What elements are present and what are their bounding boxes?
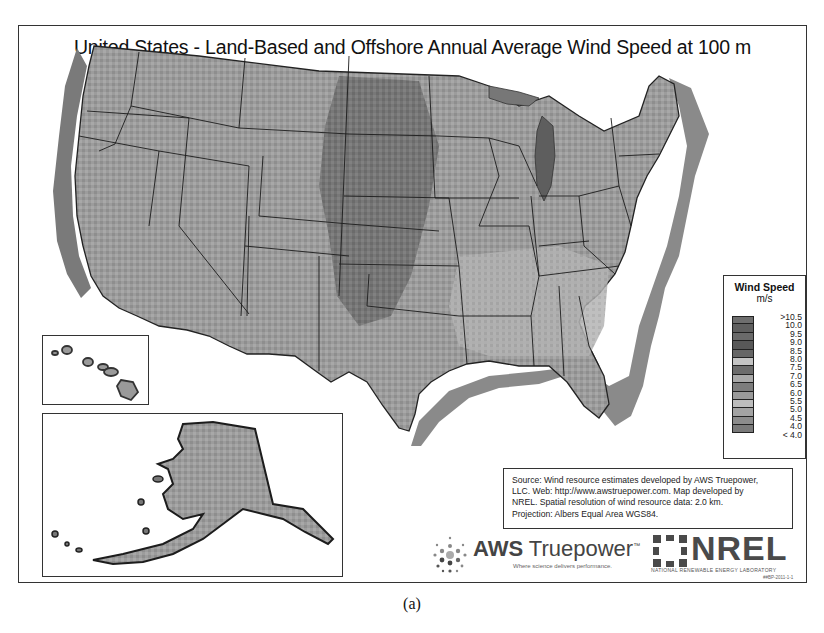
legend-title: Wind Speed xyxy=(724,281,805,293)
map-figure-frame: United States - Land-Based and Offshore … xyxy=(18,25,807,583)
legend-swatch xyxy=(732,400,754,408)
legend-swatches xyxy=(732,316,754,433)
legend-swatch xyxy=(732,425,754,433)
legend-swatch xyxy=(732,375,754,383)
source-note: Source: Wind resource estimates develope… xyxy=(503,468,793,529)
aws-tagline: Where science delivers performance. xyxy=(513,563,612,569)
legend-swatch xyxy=(732,358,754,366)
legend-swatch xyxy=(732,341,754,349)
legend-swatch xyxy=(732,316,754,324)
aws-truepower-logo: AWS Truepower™ xyxy=(473,536,640,562)
legend-swatch xyxy=(732,366,754,374)
nrel-logo: NREL xyxy=(691,529,788,568)
logos: AWS Truepower™ Where science delivers pe… xyxy=(429,531,799,581)
source-line: NREL. Spatial resolution of wind resourc… xyxy=(512,497,784,508)
legend-swatch xyxy=(732,383,754,391)
alaska-map xyxy=(43,414,341,575)
wind-speed-legend: Wind Speed m/s >10.510.09.59.08.58.07.57… xyxy=(723,275,806,459)
legend-swatch xyxy=(732,392,754,400)
legend-swatch xyxy=(732,350,754,358)
source-line: Projection: Albers Equal Area WGS84. xyxy=(512,509,784,520)
source-line: LLC. Web: http://www.awstruepower.com. M… xyxy=(512,486,784,497)
nrel-subtitle: NATIONAL RENEWABLE ENERGY LABORATORY xyxy=(651,567,776,573)
aws-dots-icon xyxy=(429,533,471,577)
figure-caption: (a) xyxy=(0,595,824,613)
legend-labels: >10.510.09.59.08.58.07.57.06.56.05.55.04… xyxy=(758,313,802,439)
legend-swatch xyxy=(732,324,754,332)
nrel-emblem-icon xyxy=(653,535,687,567)
legend-swatch xyxy=(732,408,754,416)
legend-unit: m/s xyxy=(724,293,805,304)
nrel-map-code: ##BP-2011-1-1 xyxy=(763,575,793,580)
hawaii-inset xyxy=(42,335,149,405)
alaska-inset xyxy=(42,413,343,577)
southeast-low-wind xyxy=(449,246,609,356)
legend-label: < 4.0 xyxy=(758,431,802,439)
legend-swatch xyxy=(732,333,754,341)
source-line: Source: Wind resource estimates develope… xyxy=(512,475,784,486)
hawaii-map xyxy=(43,336,147,403)
legend-swatch xyxy=(732,417,754,425)
